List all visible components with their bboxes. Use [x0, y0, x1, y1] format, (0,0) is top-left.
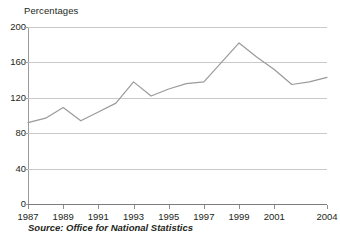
- y-tick-mark-80: [24, 133, 28, 134]
- x-tick-label-1989: 1989: [53, 211, 74, 222]
- gridline-200: [28, 27, 327, 28]
- gridline-40: [28, 169, 327, 170]
- x-tick-mark-1989: [63, 205, 64, 209]
- gridline-0: [28, 204, 327, 205]
- y-tick-label-40: 40: [4, 164, 26, 174]
- x-tick-label-1997: 1997: [193, 211, 214, 222]
- gridline-120: [28, 98, 327, 99]
- y-tick-mark-200: [24, 27, 28, 28]
- x-tick-label-1987: 1987: [17, 211, 38, 222]
- series-line-percentages: [0, 0, 340, 238]
- x-tick-label-1999: 1999: [228, 211, 249, 222]
- x-tick-mark-1991: [98, 205, 99, 209]
- x-tick-mark-2001: [274, 205, 275, 209]
- x-tick-mark-1997: [204, 205, 205, 209]
- y-axis-line: [28, 27, 29, 205]
- x-tick-label-2004: 2004: [316, 211, 337, 222]
- y-tick-label-80: 80: [4, 128, 26, 138]
- y-tick-label-200: 200: [4, 22, 26, 32]
- y-axis-tick-labels: 04080120160200: [0, 0, 26, 238]
- y-tick-mark-120: [24, 98, 28, 99]
- gridline-160: [28, 62, 327, 63]
- x-tick-mark-1995: [169, 205, 170, 209]
- x-tick-mark-2004: [327, 205, 328, 209]
- x-tick-mark-1987: [28, 205, 29, 209]
- chart-figure: Percentages 04080120160200 1987198919911…: [0, 0, 340, 238]
- x-tick-label-1991: 1991: [88, 211, 109, 222]
- source-note: Source: Office for National Statistics: [28, 222, 193, 233]
- x-tick-mark-1993: [134, 205, 135, 209]
- y-tick-label-160: 160: [4, 57, 26, 67]
- x-tick-mark-1999: [239, 205, 240, 209]
- y-tick-mark-160: [24, 62, 28, 63]
- y-tick-label-0: 0: [4, 199, 26, 209]
- y-tick-label-120: 120: [4, 93, 26, 103]
- x-tick-label-1995: 1995: [158, 211, 179, 222]
- x-tick-label-1993: 1993: [123, 211, 144, 222]
- y-tick-mark-40: [24, 169, 28, 170]
- y-axis-title: Percentages: [24, 5, 78, 16]
- x-tick-label-2001: 2001: [264, 211, 285, 222]
- gridline-80: [28, 133, 327, 134]
